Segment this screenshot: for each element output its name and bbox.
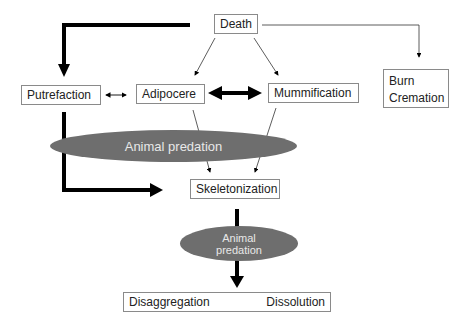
edge-death-mummification (254, 38, 278, 75)
node-skeletonization: Skeletonization (190, 179, 280, 199)
animal-predation-ellipse-2: Animal predation (180, 226, 298, 261)
edge-death-putrefaction (58, 25, 190, 77)
animal-predation-label: Animal predation (125, 139, 223, 154)
edges-layer (0, 0, 466, 330)
node-burn-cremation: Burn Cremation (383, 69, 449, 108)
edge-death-adipocere (195, 38, 215, 75)
dissolution-label: Dissolution (266, 295, 325, 309)
node-death: Death (214, 14, 258, 34)
node-disaggregation-dissolution: Disaggregation Dissolution (123, 292, 331, 312)
burn-label: Burn (389, 74, 414, 88)
animal-predation-label-2: Animal predation (216, 232, 262, 256)
label-line-2: predation (216, 244, 262, 256)
node-mummification: Mummification (268, 83, 359, 103)
edge-adipocere-mummification (208, 86, 262, 100)
edge-death-burn (262, 25, 419, 57)
animal-predation-ellipse: Animal predation (50, 130, 297, 162)
label-line-1: Animal (222, 232, 256, 244)
cremation-label: Cremation (389, 91, 444, 105)
node-putrefaction: Putrefaction (21, 85, 101, 105)
disaggregation-label: Disaggregation (129, 295, 210, 309)
node-adipocere: Adipocere (136, 84, 205, 104)
